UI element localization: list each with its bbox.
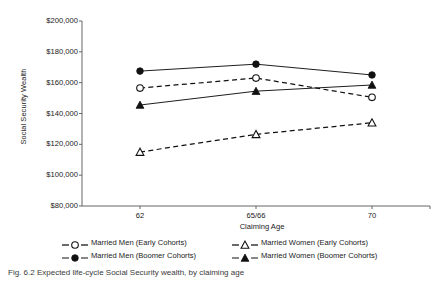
data-point xyxy=(253,75,260,82)
legend-marker xyxy=(72,241,79,248)
chart-plot-area: Social Security Wealth $80,000$100,000$1… xyxy=(0,0,444,232)
legend-row: Married Men (Boomer Cohorts)Married Wome… xyxy=(0,249,444,262)
y-tick-label: $80,000 xyxy=(20,201,78,210)
y-tick-label: $140,000 xyxy=(20,109,78,118)
x-tick-label: 65/66 xyxy=(226,211,286,220)
y-tick-label: $200,000 xyxy=(20,16,78,25)
y-tick-label: $160,000 xyxy=(20,78,78,87)
legend-marker-filled-triangle-icon xyxy=(232,250,258,262)
legend-label: Married Women (Boomer Cohorts) xyxy=(258,251,377,260)
chart-axes xyxy=(79,21,430,209)
chart-legend: Married Men (Early Cohorts)Married Women… xyxy=(0,236,444,264)
y-axis-tick-labels: $80,000$100,000$120,000$140,000$160,000$… xyxy=(14,0,78,232)
legend-item[interactable]: Married Men (Early Cohorts) xyxy=(62,236,187,249)
legend-marker-open-triangle-icon xyxy=(232,237,258,249)
figure-caption: Fig. 6.2 Expected life-cycle Social Secu… xyxy=(8,268,444,277)
data-point xyxy=(369,94,376,101)
data-point xyxy=(369,72,376,79)
legend-item[interactable]: Married Women (Boomer Cohorts) xyxy=(232,249,377,262)
legend-item[interactable]: Married Men (Boomer Cohorts) xyxy=(62,249,196,262)
legend-marker-open-circle-icon xyxy=(62,237,88,249)
y-tick-label: $120,000 xyxy=(20,139,78,148)
figure: Social Security Wealth $80,000$100,000$1… xyxy=(0,0,444,281)
series-3 xyxy=(136,81,376,108)
data-point xyxy=(253,61,260,68)
legend-marker xyxy=(241,254,249,261)
legend-row: Married Men (Early Cohorts)Married Women… xyxy=(0,236,444,249)
legend-item[interactable]: Married Women (Early Cohorts) xyxy=(232,236,368,249)
legend-label: Married Men (Boomer Cohorts) xyxy=(88,251,196,260)
x-tick-label: 62 xyxy=(110,211,170,220)
legend-label: Married Women (Early Cohorts) xyxy=(258,238,368,247)
legend-marker-filled-circle-icon xyxy=(62,250,88,262)
y-tick-label: $180,000 xyxy=(20,47,78,56)
legend-label: Married Men (Early Cohorts) xyxy=(88,238,187,247)
legend-marker xyxy=(241,241,249,248)
x-tick-label: 70 xyxy=(342,211,402,220)
y-tick-label: $100,000 xyxy=(20,170,78,179)
series-1 xyxy=(136,119,376,156)
legend-marker xyxy=(72,254,79,261)
data-point xyxy=(137,68,144,75)
x-axis-title: Claiming Age xyxy=(82,222,442,231)
data-point xyxy=(137,85,144,92)
